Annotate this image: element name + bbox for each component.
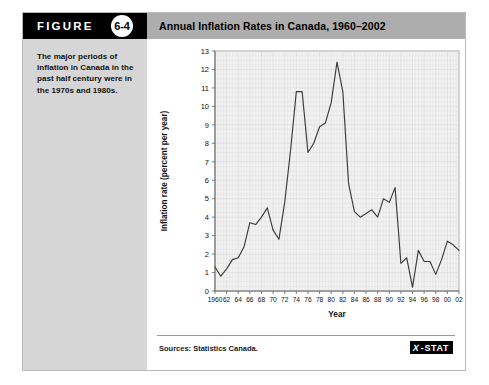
svg-text:8: 8 [205, 139, 209, 148]
svg-text:92: 92 [397, 296, 405, 303]
svg-text:88: 88 [374, 296, 382, 303]
svg-text:80: 80 [328, 296, 336, 303]
svg-text:64: 64 [235, 296, 243, 303]
figure-number-badge: 6-4 [111, 15, 133, 37]
svg-text:11: 11 [201, 84, 209, 93]
y-axis-tick-labels: 012345678910111213 [201, 47, 215, 296]
line-chart: 012345678910111213 196062646668707274767… [147, 39, 466, 335]
source-note: Sources: Statistics Canada. [159, 344, 258, 353]
svg-text:90: 90 [386, 296, 394, 303]
figure-caption: The major periods of inflation in Canada… [37, 51, 135, 96]
svg-text:94: 94 [409, 296, 417, 303]
svg-text:98: 98 [432, 296, 440, 303]
svg-text:7: 7 [205, 158, 209, 167]
figure-label: FIGURE [37, 20, 94, 32]
page-title: Annual Inflation Rates in Canada, 1960–2… [147, 20, 386, 32]
xstat-logo: X-STAT [410, 341, 453, 354]
xstat-logo-x: X [412, 343, 421, 353]
figure-number-tab: FIGURE 6-4 [23, 13, 147, 39]
figure-panel: 012345678910111213 196062646668707274767… [147, 39, 465, 371]
figure-header: FIGURE 6-4 Annual Inflation Rates in Can… [23, 13, 465, 39]
svg-text:2: 2 [205, 250, 209, 259]
svg-text:1960: 1960 [208, 296, 223, 303]
svg-text:5: 5 [205, 194, 209, 203]
svg-text:9: 9 [205, 121, 209, 130]
svg-text:76: 76 [304, 296, 312, 303]
x-axis-title: Year [328, 310, 346, 319]
svg-text:72: 72 [281, 296, 289, 303]
svg-text:84: 84 [351, 296, 359, 303]
x-axis-tick-labels: 1960626466687072747678808284868890929496… [208, 291, 463, 303]
figure-sidebar: The major periods of inflation in Canada… [23, 39, 147, 371]
svg-text:6: 6 [205, 176, 209, 185]
svg-text:00: 00 [444, 296, 452, 303]
svg-text:78: 78 [316, 296, 324, 303]
svg-text:82: 82 [339, 296, 347, 303]
svg-text:10: 10 [201, 102, 209, 111]
svg-text:13: 13 [201, 47, 209, 56]
svg-text:74: 74 [293, 296, 301, 303]
svg-text:3: 3 [205, 231, 209, 240]
svg-text:86: 86 [362, 296, 370, 303]
svg-text:0: 0 [205, 287, 209, 296]
svg-text:12: 12 [201, 65, 209, 74]
chart-svg: 012345678910111213 196062646668707274767… [147, 39, 466, 335]
svg-text:02: 02 [455, 296, 463, 303]
figure-footer: Sources: Statistics Canada. X-STAT [157, 335, 455, 366]
svg-text:4: 4 [205, 213, 209, 222]
svg-text:96: 96 [420, 296, 428, 303]
svg-text:1: 1 [205, 268, 209, 277]
figure-card: FIGURE 6-4 Annual Inflation Rates in Can… [22, 12, 466, 371]
xstat-logo-text: -STAT [421, 343, 449, 353]
svg-text:68: 68 [258, 296, 266, 303]
svg-text:66: 66 [246, 296, 254, 303]
svg-text:70: 70 [269, 296, 277, 303]
y-axis-title: Inflation rate (percent per year) [160, 110, 169, 231]
figure-title-bar: Annual Inflation Rates in Canada, 1960–2… [147, 13, 465, 39]
figure-body: The major periods of inflation in Canada… [23, 39, 465, 371]
svg-text:62: 62 [223, 296, 231, 303]
